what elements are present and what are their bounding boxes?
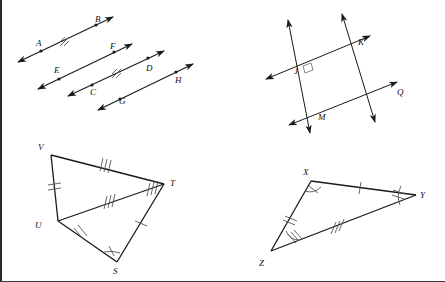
point-D-dot: [146, 56, 149, 59]
point-H-dot: [174, 70, 177, 73]
label-V: V: [38, 142, 45, 152]
triangle-xyz-figure: X Y Z: [250, 160, 440, 282]
angle-mark-Y: [392, 186, 405, 205]
label-A: A: [35, 38, 42, 48]
label-U: U: [35, 220, 42, 230]
tick-group-UT-near-T: [147, 181, 158, 196]
line-EF: [38, 44, 132, 89]
tick-group-VT: [100, 158, 111, 173]
label-M: M: [317, 112, 326, 122]
line-through-M-Q: [289, 82, 397, 125]
parallelogram-jkqm-figure: J K Q M: [250, 8, 445, 133]
tick-group-UT: [104, 194, 115, 209]
line-through-K-Q: [342, 14, 375, 122]
label-C: C: [90, 87, 97, 97]
label-X: X: [302, 167, 309, 177]
line-through-J-K: [266, 36, 370, 79]
label-D: D: [145, 63, 153, 73]
seg-ZY: [271, 195, 416, 251]
label-Y: Y: [420, 190, 426, 200]
point-E-dot: [57, 77, 60, 80]
seg-US: [58, 221, 117, 262]
line-CD: [68, 51, 164, 96]
seg-XZ: [271, 181, 311, 251]
label-H: H: [174, 75, 182, 85]
label-G: G: [119, 96, 126, 106]
label-B: B: [95, 14, 101, 24]
label-S: S: [113, 266, 118, 276]
label-T: T: [170, 178, 176, 188]
geometry-worksheet-page: A B E F C D G H: [0, 0, 445, 282]
label-K: K: [357, 37, 365, 47]
parallel-mark-CD: [112, 69, 121, 78]
right-angle-marker-J: [303, 63, 313, 73]
label-F: F: [109, 41, 116, 51]
parallel-lines-figure: A B E F C D G H: [0, 0, 220, 130]
seg-VU: [51, 155, 58, 221]
angle-mark-Z: [286, 230, 302, 243]
label-Q: Q: [397, 87, 404, 97]
seg-VT: [51, 155, 164, 184]
line-through-J-M: [288, 20, 310, 133]
triangle-vuts-figure: V T U S: [25, 138, 190, 282]
label-E: E: [53, 65, 60, 75]
point-A-dot: [39, 49, 42, 52]
label-Z: Z: [259, 258, 265, 268]
